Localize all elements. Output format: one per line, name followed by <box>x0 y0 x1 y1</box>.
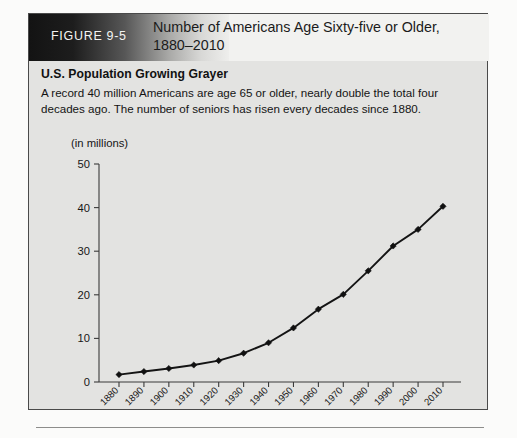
data-point-marker <box>241 350 247 356</box>
figure-title: Number of Americans Age Sixty-five or Ol… <box>153 19 479 54</box>
page-background: FIGURE 9-5 Number of Americans Age Sixty… <box>0 0 517 438</box>
y-tick-label: 20 <box>78 289 90 301</box>
x-tick-label: 1970 <box>322 385 345 408</box>
data-point-marker <box>116 371 122 377</box>
x-tick-label: 2010 <box>422 385 445 408</box>
x-tick-label: 1930 <box>222 385 245 408</box>
x-tick-label: 1980 <box>347 385 370 408</box>
y-tick-label: 10 <box>78 332 90 344</box>
x-tick-label: 1990 <box>372 385 395 408</box>
line-chart-svg: 01020304050 1880189019001910192019301940… <box>29 142 489 411</box>
data-point-marker <box>191 362 197 368</box>
x-axis: 1880189019001910192019301940195019601970… <box>98 382 461 408</box>
data-series <box>116 203 446 377</box>
y-tick-label: 50 <box>78 158 90 170</box>
data-point-marker <box>141 368 147 374</box>
figure-container: FIGURE 9-5 Number of Americans Age Sixty… <box>28 13 488 410</box>
y-tick-label: 0 <box>84 376 90 388</box>
y-tick-label: 40 <box>78 202 90 214</box>
x-tick-label: 1960 <box>297 385 320 408</box>
caption-heading: U.S. Population Growing Grayer <box>41 67 477 81</box>
footer-divider <box>36 427 484 428</box>
x-tick-label: 2000 <box>397 385 420 408</box>
x-tick-label: 1880 <box>98 385 121 408</box>
x-tick-label: 1940 <box>247 385 270 408</box>
x-tick-label: 1950 <box>272 385 295 408</box>
y-tick-label: 30 <box>78 245 90 257</box>
caption-body-text: A record 40 million Americans are age 65… <box>41 85 477 116</box>
chart-plot-area: 01020304050 1880189019001910192019301940… <box>29 142 489 411</box>
x-tick-label: 1920 <box>197 385 220 408</box>
caption-block: U.S. Population Growing Grayer A record … <box>41 67 477 116</box>
x-tick-label: 1910 <box>172 385 195 408</box>
data-point-marker <box>166 365 172 371</box>
x-tick-label: 1900 <box>147 385 170 408</box>
figure-header-band: FIGURE 9-5 Number of Americans Age Sixty… <box>29 14 489 61</box>
figure-number-label: FIGURE 9-5 <box>51 29 127 43</box>
series-line <box>119 206 443 374</box>
y-axis: 01020304050 <box>78 158 99 388</box>
data-point-marker <box>216 358 222 364</box>
x-tick-label: 1890 <box>122 385 145 408</box>
